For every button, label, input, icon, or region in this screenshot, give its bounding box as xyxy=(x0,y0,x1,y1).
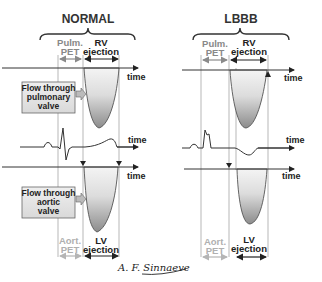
normal-title: NORMAL xyxy=(62,12,115,26)
normal-marker-lv-end xyxy=(116,161,122,166)
pulmonary-callout-line3: valve xyxy=(38,101,60,111)
lbbb-lv-ejection-line2: ejection xyxy=(231,243,267,254)
lbbb-pulm-pet-line2: PET xyxy=(206,47,225,58)
normal-lv-ejection-line2: ejection xyxy=(83,244,119,255)
aortic-callout-arrow-icon xyxy=(76,193,86,205)
normal-panel: NORMAL Pulm. PET RV ejection time Flow t… xyxy=(2,12,147,257)
normal-ecg-trace xyxy=(20,128,136,160)
signature: A. F. Sinnaeve xyxy=(117,262,190,274)
signature-text: A. F. Sinnaeve xyxy=(117,262,190,273)
lbbb-marker-aortic-open xyxy=(226,163,232,168)
lbbb-rv-flow-curve xyxy=(230,70,267,128)
normal-ecg-time-label: time xyxy=(128,135,147,145)
lbbb-ecg-trace xyxy=(182,130,292,155)
lbbb-aort-pet-line2: PET xyxy=(206,245,225,256)
diagram-canvas: NORMAL Pulm. PET RV ejection time Flow t… xyxy=(0,0,322,282)
lbbb-ecg-time-label: time xyxy=(286,135,305,145)
normal-brace xyxy=(40,28,135,40)
normal-lv-flow-curve xyxy=(84,167,118,232)
lbbb-lv-flow-curve xyxy=(237,169,267,224)
aortic-callout-line3: valve xyxy=(38,206,60,216)
aortic-flow-callout: Flow through aortic valve xyxy=(22,187,86,218)
normal-bottom-time-label: time xyxy=(127,171,146,181)
normal-pulm-pet-line2: PET xyxy=(61,46,80,57)
lbbb-bottom-time-label: time xyxy=(282,171,301,181)
lbbb-panel: LBBB Pulm. PET RV ejection time time tim… xyxy=(182,12,305,257)
normal-marker-pulm-open xyxy=(80,161,86,166)
normal-rv-ejection-line2: ejection xyxy=(83,46,119,57)
normal-rv-flow-curve xyxy=(84,68,119,128)
lbbb-top-time-label: time xyxy=(284,73,303,83)
lbbb-rv-ejection-line2: ejection xyxy=(231,46,267,57)
normal-aort-pet-line2: PET xyxy=(61,244,80,255)
normal-top-time-label: time xyxy=(127,72,146,82)
lbbb-title: LBBB xyxy=(224,12,258,26)
pulmonary-callout-arrow-icon xyxy=(76,88,86,100)
pulmonary-flow-callout: Flow through pulmonary valve xyxy=(22,82,86,113)
